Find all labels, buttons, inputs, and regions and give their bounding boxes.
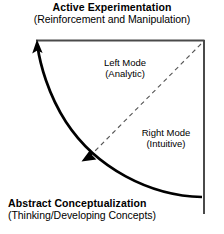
diagram-canvas: Active Experimentation (Reinforcement an… xyxy=(0,0,224,234)
bottom-axis-subtitle: (Thinking/Developing Concepts) xyxy=(8,209,224,221)
quadrant-label-left-mode: Left Mode (Analytic) xyxy=(88,57,162,79)
top-axis-heading: Active Experimentation xyxy=(0,1,224,13)
left-mode-subtitle: (Analytic) xyxy=(88,68,162,79)
top-axis-label: Active Experimentation (Reinforcement an… xyxy=(0,1,224,26)
right-mode-heading: Right Mode xyxy=(126,127,206,138)
bottom-axis-label: Abstract Conceptualization (Thinking/Dev… xyxy=(8,197,224,222)
top-axis-subtitle: (Reinforcement and Manipulation) xyxy=(0,13,224,25)
right-mode-subtitle: (Intuitive) xyxy=(126,138,206,149)
bottom-axis-heading: Abstract Conceptualization xyxy=(8,197,224,209)
left-mode-heading: Left Mode xyxy=(88,57,162,68)
quadrant-label-right-mode: Right Mode (Intuitive) xyxy=(126,127,206,149)
